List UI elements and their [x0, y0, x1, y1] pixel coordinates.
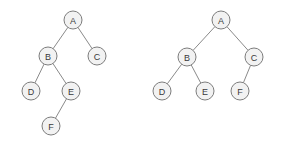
edges-layer [35, 27, 251, 119]
node-label-e: E [68, 87, 74, 97]
node-label-a: A [218, 16, 224, 26]
tree-edge-b-d [35, 64, 44, 83]
left-binary-tree-edges [35, 27, 92, 118]
node-label-d: D [28, 87, 35, 97]
tree-node-a[interactable]: A [212, 11, 230, 29]
tree-node-a[interactable]: A [64, 11, 82, 29]
node-label-b: B [45, 52, 51, 62]
binary-trees-diagram: ABCDEFABCDEF [0, 0, 282, 152]
tree-edge-e-f [55, 99, 66, 118]
node-label-c: C [251, 53, 258, 63]
tree-edge-a-c [227, 27, 248, 51]
node-label-d: D [159, 87, 166, 97]
tree-edge-b-d [167, 64, 181, 84]
left-binary-tree-nodes: ABCDEF [22, 11, 106, 135]
diagram-canvas: ABCDEFABCDEF [0, 0, 282, 152]
tree-edge-c-f [243, 65, 250, 82]
tree-node-d[interactable]: D [22, 82, 40, 100]
node-label-e: E [202, 87, 208, 97]
tree-node-f[interactable]: F [231, 82, 249, 100]
node-label-f: F [48, 122, 54, 132]
tree-node-d[interactable]: D [153, 82, 171, 100]
node-label-a: A [70, 16, 76, 26]
tree-edge-a-c [78, 27, 92, 48]
tree-node-e[interactable]: E [196, 82, 214, 100]
tree-node-c[interactable]: C [88, 47, 106, 65]
node-label-f: F [237, 87, 243, 97]
node-label-c: C [94, 52, 101, 62]
tree-node-c[interactable]: C [245, 48, 263, 66]
tree-edge-b-e [53, 64, 66, 84]
tree-node-e[interactable]: E [62, 82, 80, 100]
right-binary-tree-nodes: ABCDEF [153, 11, 263, 100]
tree-node-b[interactable]: B [178, 48, 196, 66]
tree-edge-a-b [53, 27, 68, 48]
node-label-b: B [184, 53, 190, 63]
tree-edge-a-b [193, 27, 215, 51]
tree-edge-b-e [191, 65, 201, 83]
nodes-layer: ABCDEFABCDEF [22, 11, 263, 135]
tree-node-b[interactable]: B [39, 47, 57, 65]
tree-node-f[interactable]: F [42, 117, 60, 135]
